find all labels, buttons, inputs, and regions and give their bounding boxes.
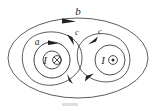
figure-eight-arrowhead-lower-right	[85, 74, 94, 82]
caption-artifact	[62, 103, 78, 106]
label-current-right: I	[100, 54, 106, 66]
figure-canvas: b a c c I I	[0, 0, 156, 111]
label-inner-loop-a: a	[35, 37, 40, 47]
right-current-ring	[95, 45, 125, 75]
inner-loop-a-circle	[34, 42, 70, 78]
physics-figure: b a c c I I	[0, 0, 156, 111]
figure-eight-left-lobe	[22, 32, 82, 85]
figure-eight-arrowhead-upper-left	[67, 35, 74, 46]
out-of-page-symbol-dot	[112, 59, 115, 62]
label-figure-eight-c-left: c	[75, 27, 79, 37]
label-outer-loop-b: b	[75, 5, 81, 17]
outer-loop-b-arrowhead	[62, 19, 76, 24]
label-current-left: I	[42, 54, 48, 66]
figure-eight-arrowhead-lower-left	[67, 74, 73, 85]
figure-eight-arrowhead-upper-right	[88, 37, 98, 45]
label-figure-eight-c-right: c	[98, 26, 102, 36]
